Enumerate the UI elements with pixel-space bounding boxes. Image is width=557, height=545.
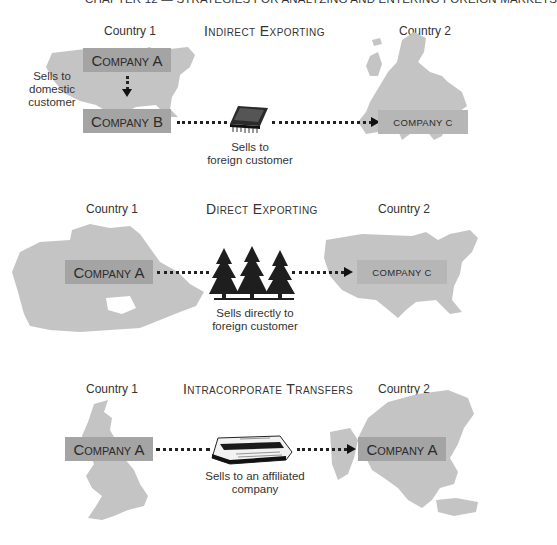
country2-label: Country 2 — [378, 202, 430, 216]
company-c-box: COMPANY C — [378, 110, 468, 134]
arrow-right-icon — [344, 267, 353, 277]
arrow-down-icon — [122, 89, 132, 97]
caption-line: foreign customer — [200, 154, 300, 167]
microchip-icon — [228, 104, 270, 134]
section-title: Indirect Exporting — [204, 23, 325, 39]
caption-line: customer — [24, 96, 80, 109]
chapter-header: CHAPTER 12 — STRATEGIES FOR ANALYZING AN… — [85, 0, 557, 5]
dotted-connector — [292, 271, 344, 274]
caption-line: domestic — [24, 83, 80, 96]
dotted-connector — [126, 76, 129, 90]
dotted-connector — [297, 448, 347, 451]
company-a-box: Company A — [65, 260, 153, 284]
dotted-connector — [272, 121, 372, 124]
section-title: Direct Exporting — [206, 201, 318, 217]
pine-trees-icon — [208, 244, 298, 304]
country1-label: Country 1 — [104, 24, 156, 38]
product-caption: Sells to an affiliated company — [195, 470, 315, 496]
country1-label: Country 1 — [86, 202, 138, 216]
caption-line: foreign customer — [200, 320, 310, 333]
caption-line: company — [195, 483, 315, 496]
caption-line: Sells to — [24, 70, 80, 83]
caption-line: Sells to — [200, 141, 300, 154]
domestic-caption: Sells to domestic customer — [24, 70, 80, 109]
company-a-box: Company A — [83, 48, 171, 72]
company-a-affiliate-box: Company A — [358, 437, 446, 461]
product-caption: Sells to foreign customer — [200, 141, 300, 167]
caption-line: Sells directly to — [200, 307, 310, 320]
caption-line: Sells to an affiliated — [195, 470, 315, 483]
product-caption: Sells directly to foreign customer — [200, 307, 310, 333]
company-c-box: COMPANY C — [357, 260, 447, 284]
uk-map — [74, 400, 152, 522]
country1-label: Country 1 — [86, 382, 138, 396]
company-b-box: Company B — [83, 109, 171, 133]
dotted-connector — [177, 121, 227, 124]
dotted-connector — [156, 448, 210, 451]
arrow-right-icon — [347, 444, 356, 454]
dotted-connector — [157, 271, 209, 274]
newspaper-icon — [210, 434, 294, 466]
company-a-box: Company A — [65, 437, 153, 461]
